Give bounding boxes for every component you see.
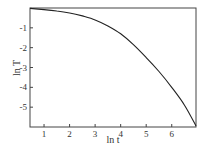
chart: 123456 -1-2-3-4-5 ln t ln T [0, 0, 207, 150]
x-tick-label: 2 [67, 129, 72, 139]
x-axis-label: ln t [106, 134, 119, 145]
x-tick-label: 6 [169, 129, 174, 139]
x-tick-label: 1 [42, 129, 47, 139]
x-tick-label: 3 [93, 129, 98, 139]
x-tick-label: 5 [144, 129, 149, 139]
y-axis-label: ln T [11, 60, 22, 76]
data-line [30, 8, 196, 126]
plot-frame [30, 8, 196, 127]
y-tick-label: -5 [20, 102, 28, 112]
y-tick-label: -4 [20, 82, 28, 92]
y-tick-label: -1 [20, 23, 28, 33]
y-tick-label: -2 [20, 43, 28, 53]
